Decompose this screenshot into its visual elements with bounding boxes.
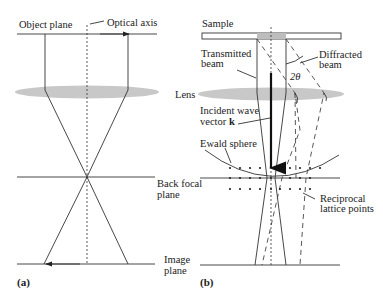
panel-a-tag: (a)	[17, 276, 30, 289]
ewald-sphere-label: Ewald sphere	[200, 138, 257, 149]
object-plane-label: Object plane	[19, 19, 73, 30]
diffracted-beam-label-2: beam	[319, 59, 342, 70]
sample-illuminated-region	[257, 33, 286, 39]
diffraction-diagram: Object plane Optical axis Back focal pla…	[0, 0, 383, 299]
panel-a: Object plane Optical axis Back focal pla…	[15, 17, 202, 289]
ray-right	[44, 34, 128, 264]
lens-a	[15, 86, 159, 99]
sample-label: Sample	[202, 18, 234, 29]
image-plane-label-1: Image	[164, 254, 191, 265]
incident-wave-label-2: vector k	[200, 116, 235, 127]
back-focal-label-2: plane	[157, 189, 180, 200]
back-focal-label-1: Back focal	[157, 178, 202, 189]
angle-label: 2θ	[290, 71, 300, 82]
optical-axis-label: Optical axis	[107, 17, 157, 28]
lens-label: Lens	[175, 89, 195, 100]
ray-left	[45, 34, 128, 264]
incident-wave-label-1: Incident wave	[200, 105, 260, 116]
reciprocal-lattice-label-2: lattice points	[320, 203, 374, 214]
transmitted-beam-label-2: beam	[201, 58, 224, 69]
panel-b-tag: (b)	[200, 276, 214, 289]
image-plane-label-2: plane	[164, 265, 187, 276]
panel-b: Lens Sample 2θ	[175, 18, 374, 289]
